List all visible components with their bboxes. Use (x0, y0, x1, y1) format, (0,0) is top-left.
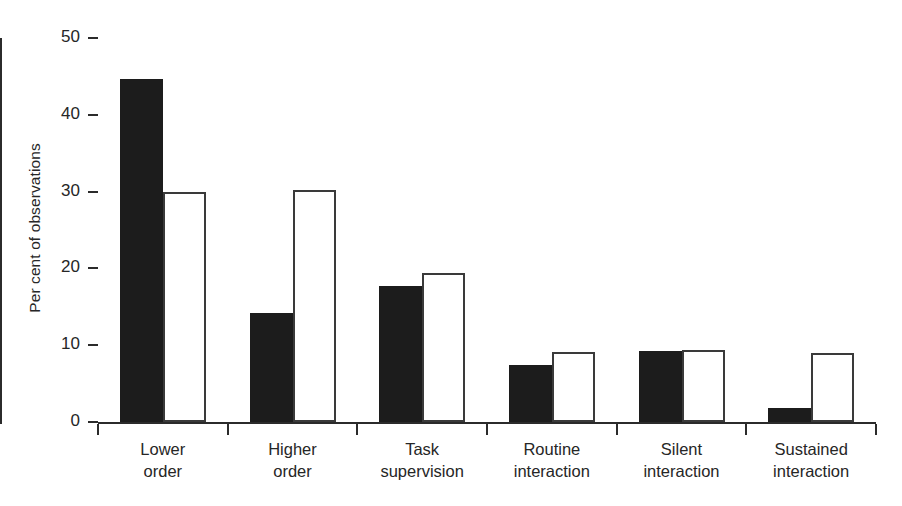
y-tick-mark (88, 191, 98, 193)
x-axis-category-label: Higherorder (228, 438, 358, 482)
bar-group (120, 38, 206, 422)
category-label-line: Sustained (746, 438, 876, 460)
category-label-line: interaction (746, 460, 876, 482)
x-tick-mark (227, 424, 229, 435)
category-label-line: order (228, 460, 358, 482)
x-axis-category-label: Sustainedinteraction (746, 438, 876, 482)
bar-filled (379, 286, 422, 422)
x-tick-mark (97, 424, 99, 435)
bar-filled (120, 79, 163, 422)
x-axis-category-label: Tasksupervision (357, 438, 487, 482)
bar-open (682, 350, 725, 422)
y-tick: 50 (0, 37, 98, 39)
bar-filled (509, 365, 552, 422)
y-tick-label: 50 (44, 28, 80, 45)
category-label-line: interaction (487, 460, 617, 482)
bar-open (422, 273, 465, 422)
y-tick-mark (88, 344, 98, 346)
x-axis-category-label: Silentinteraction (617, 438, 747, 482)
y-tick: 10 (0, 344, 98, 346)
x-tick-mark (616, 424, 618, 435)
x-tick-mark (486, 424, 488, 435)
bar-group (768, 38, 854, 422)
y-tick: 30 (0, 191, 98, 193)
bar-filled (768, 408, 811, 422)
bar-chart: Per cent of observations 01020304050 Low… (0, 0, 902, 506)
x-tick-mark (875, 424, 877, 435)
bar-filled (639, 351, 682, 422)
y-tick-label: 20 (44, 258, 80, 275)
y-tick: 20 (0, 267, 98, 269)
y-tick-mark (88, 421, 98, 423)
bar-open (811, 353, 854, 422)
y-tick-label: 30 (44, 182, 80, 199)
y-tick-label: 40 (44, 105, 80, 122)
y-tick-mark (88, 267, 98, 269)
category-label-line: supervision (357, 460, 487, 482)
bar-group (379, 38, 465, 422)
y-axis-label: Per cent of observations (22, 78, 48, 378)
category-label-line: interaction (617, 460, 747, 482)
bar-open (293, 190, 336, 422)
bar-group (639, 38, 725, 422)
bar-filled (250, 313, 293, 422)
category-label-line: Silent (617, 438, 747, 460)
y-tick-mark (88, 37, 98, 39)
y-tick-label: 10 (44, 335, 80, 352)
y-tick-mark (88, 114, 98, 116)
bar-group (250, 38, 336, 422)
x-axis-category-label: Routineinteraction (487, 438, 617, 482)
category-label-line: Lower (98, 438, 228, 460)
category-label-line: Higher (228, 438, 358, 460)
bar-open (163, 192, 206, 422)
x-axis-category-label: Lowerorder (98, 438, 228, 482)
x-tick-mark (356, 424, 358, 435)
category-label-line: Task (357, 438, 487, 460)
category-label-line: Routine (487, 438, 617, 460)
category-label-line: order (98, 460, 228, 482)
bar-group (509, 38, 595, 422)
y-tick-label: 0 (44, 412, 80, 429)
y-tick: 40 (0, 114, 98, 116)
x-tick-mark (745, 424, 747, 435)
bar-open (552, 352, 595, 422)
y-axis-line (0, 38, 2, 424)
y-tick: 0 (0, 421, 98, 423)
